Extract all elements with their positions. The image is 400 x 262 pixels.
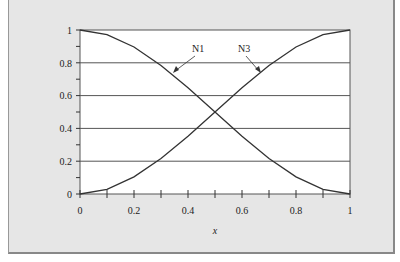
svg-text:0.8: 0.8	[290, 205, 303, 216]
svg-text:0.2: 0.2	[128, 205, 141, 216]
y-tick-labels: 0 0.2 0.4 0.6 0.8 1	[60, 25, 73, 200]
svg-text:N3: N3	[238, 43, 250, 54]
svg-text:0.4: 0.4	[60, 123, 73, 134]
x-axis-label: x	[212, 225, 218, 236]
svg-text:0.8: 0.8	[60, 58, 73, 69]
svg-text:0.6: 0.6	[60, 90, 73, 101]
svg-text:0.6: 0.6	[236, 205, 249, 216]
chart-svg: 0 0.2 0.4 0.6 0.8 1 0 0.2 0.4 0.6 0.8 1 …	[0, 0, 400, 262]
y-axis-ticks	[76, 30, 80, 194]
svg-text:0.4: 0.4	[182, 205, 195, 216]
x-tick-labels: 0 0.2 0.4 0.6 0.8 1	[78, 205, 353, 216]
svg-text:1: 1	[348, 205, 353, 216]
svg-text:N1: N1	[192, 43, 204, 54]
svg-text:0: 0	[67, 189, 72, 200]
svg-text:0: 0	[78, 205, 83, 216]
svg-text:1: 1	[67, 25, 72, 36]
svg-text:0.2: 0.2	[60, 156, 73, 167]
